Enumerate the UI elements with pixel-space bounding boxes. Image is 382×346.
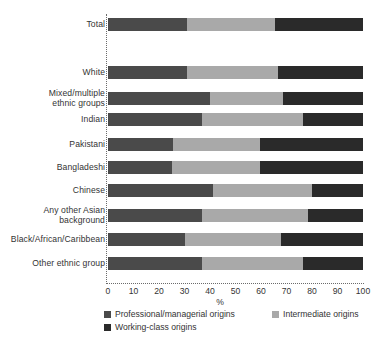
bar-segment — [187, 18, 275, 31]
category-label: White — [1, 68, 105, 78]
x-axis-line — [106, 283, 364, 284]
stacked-bar — [108, 233, 363, 246]
bar-segment — [275, 18, 363, 31]
legend-swatch-intermediate — [272, 311, 279, 318]
legend-item-professional: Professional/managerial origins — [104, 309, 235, 319]
bar-row: Other ethnic group — [0, 257, 382, 270]
stacked-bar — [108, 209, 363, 222]
bar-segment — [202, 209, 308, 222]
bar-segment — [312, 184, 363, 197]
bar-segment — [283, 92, 363, 105]
category-label: Mixed/multiple ethnic groups — [1, 89, 105, 108]
stacked-bar — [108, 161, 363, 174]
bar-segment — [278, 66, 363, 79]
bar-segment — [108, 138, 173, 151]
category-label: Other ethnic group — [1, 259, 105, 269]
bar-row: Bangladeshi — [0, 161, 382, 174]
category-label: Pakistani — [1, 140, 105, 150]
category-label: Total — [1, 20, 105, 30]
bar-segment — [281, 233, 363, 246]
bar-segment — [303, 113, 363, 126]
bar-segment — [172, 161, 260, 174]
category-label: Bangladeshi — [1, 163, 105, 173]
bar-segment — [303, 257, 363, 270]
bar-segment — [202, 113, 303, 126]
stacked-bar-chart: TotalWhiteMixed/multiple ethnic groupsIn… — [0, 0, 382, 346]
category-label: Indian — [1, 115, 105, 125]
bar-segment — [187, 66, 278, 79]
stacked-bar — [108, 18, 363, 31]
bar-row: Total — [0, 18, 382, 31]
stacked-bar — [108, 113, 363, 126]
plot-area: TotalWhiteMixed/multiple ethnic groupsIn… — [0, 0, 382, 300]
bar-segment — [108, 161, 172, 174]
bar-row: Pakistani — [0, 138, 382, 151]
bar-segment — [108, 184, 213, 197]
bar-segment — [260, 138, 363, 151]
legend-label-intermediate: Intermediate origins — [283, 309, 358, 319]
stacked-bar — [108, 184, 363, 197]
bar-segment — [210, 92, 283, 105]
x-axis-title: % — [0, 297, 382, 307]
category-label: Any other Asian background — [1, 206, 105, 225]
bar-segment — [108, 257, 202, 270]
bar-row: Indian — [0, 113, 382, 126]
bar-segment — [108, 113, 202, 126]
bar-segment — [108, 18, 187, 31]
bar-segment — [213, 184, 312, 197]
bar-row: Black/African/Caribbean — [0, 233, 382, 246]
stacked-bar — [108, 257, 363, 270]
bar-segment — [108, 209, 202, 222]
legend-label-working-class: Working-class origins — [115, 322, 197, 332]
category-label: Black/African/Caribbean — [1, 235, 105, 245]
category-label: Chinese — [1, 186, 105, 196]
bar-row: Chinese — [0, 184, 382, 197]
legend-label-professional: Professional/managerial origins — [115, 309, 235, 319]
bar-segment — [185, 233, 282, 246]
legend-swatch-professional — [104, 311, 111, 318]
stacked-bar — [108, 66, 363, 79]
bar-segment — [308, 209, 363, 222]
chart-legend: Professional/managerial origins Intermed… — [0, 309, 382, 343]
stacked-bar — [108, 138, 363, 151]
stacked-bar — [108, 92, 363, 105]
x-axis-title-text: % — [216, 297, 224, 307]
x-tick-label: 100 — [348, 286, 378, 296]
bar-row: White — [0, 66, 382, 79]
bar-segment — [173, 138, 260, 151]
bar-segment — [108, 92, 210, 105]
bar-row: Any other Asian background — [0, 209, 382, 222]
legend-swatch-working-class — [104, 324, 111, 331]
bar-segment — [108, 66, 187, 79]
bar-row: Mixed/multiple ethnic groups — [0, 92, 382, 105]
bar-segment — [202, 257, 303, 270]
bar-segment — [260, 161, 363, 174]
legend-item-intermediate: Intermediate origins — [272, 309, 358, 319]
legend-item-working-class: Working-class origins — [104, 322, 197, 332]
bar-segment — [108, 233, 185, 246]
